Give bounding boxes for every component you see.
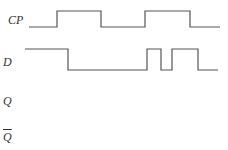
cp-waveform bbox=[29, 11, 220, 27]
waveform-canvas bbox=[0, 0, 228, 150]
d-waveform bbox=[25, 49, 218, 70]
